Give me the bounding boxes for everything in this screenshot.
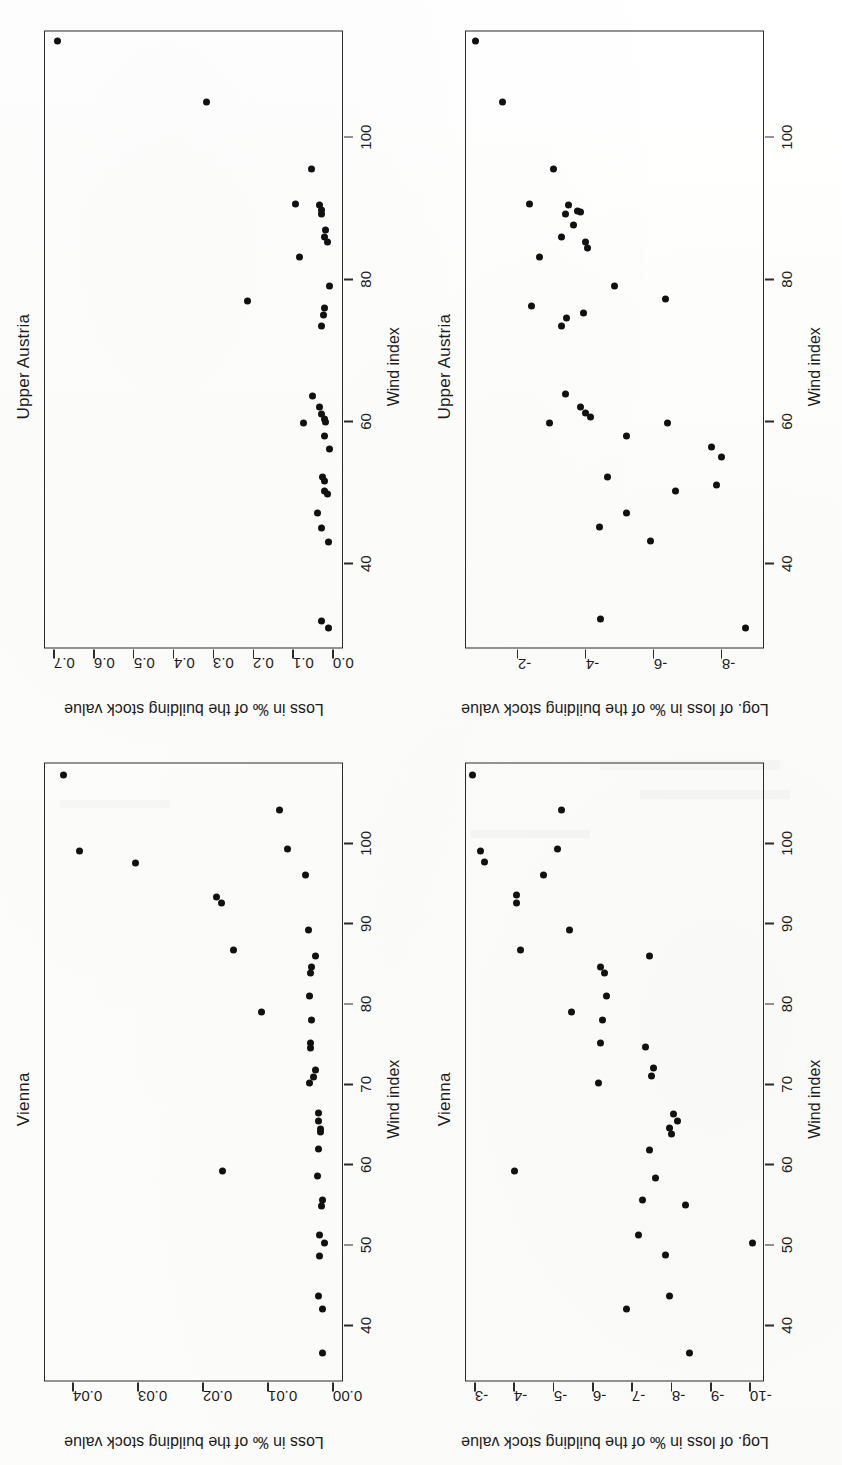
data-point: [316, 1252, 323, 1259]
y-tick-label: -7: [632, 1388, 645, 1405]
data-point: [513, 899, 520, 906]
x-tick-label: 50: [357, 1236, 374, 1253]
data-point: [203, 98, 210, 105]
data-point: [513, 891, 520, 898]
data-point: [292, 200, 299, 207]
figure-rotation-wrapper: Vienna Loss in ‰ of the building stock v…: [0, 0, 842, 1465]
x-tick-label: 80: [778, 270, 795, 287]
x-tick: [765, 136, 774, 138]
plot-area: 405060708090100 -3-4-5-6-7-8-9-10: [465, 763, 764, 1382]
data-point: [307, 969, 314, 976]
data-point: [312, 952, 319, 959]
data-point: [566, 926, 573, 933]
y-tick-label: 0.1: [293, 655, 314, 672]
data-point: [312, 1066, 319, 1073]
data-point: [321, 1239, 328, 1246]
data-point: [314, 509, 321, 516]
x-tick-label: 60: [778, 1156, 795, 1173]
data-point: [318, 524, 325, 531]
y-tick-label: -4: [514, 1388, 527, 1405]
data-point: [309, 392, 316, 399]
data-point: [611, 282, 618, 289]
x-tick: [344, 1003, 353, 1005]
data-point: [587, 413, 594, 420]
data-point: [554, 845, 561, 852]
data-point: [742, 624, 749, 631]
data-point: [308, 165, 315, 172]
y-axis-label: Log. of loss in ‰ of the building stock …: [461, 700, 769, 718]
data-point: [647, 537, 654, 544]
data-point: [577, 209, 584, 216]
x-tick: [765, 1324, 774, 1326]
y-tick-label: 0.02: [203, 1388, 232, 1405]
x-axis-label: Wind index: [806, 733, 824, 1465]
scatter-plot-figure: Vienna Loss in ‰ of the building stock v…: [0, 0, 842, 1465]
data-point: [568, 1008, 575, 1015]
data-point: [258, 1008, 265, 1015]
data-point: [481, 858, 488, 865]
x-tick-label: 80: [357, 995, 374, 1012]
x-tick: [344, 1244, 353, 1246]
x-tick: [765, 420, 774, 422]
x-tick-label: 40: [778, 1316, 795, 1333]
data-point: [713, 482, 720, 489]
plot-box: [465, 30, 764, 649]
panel-title: Upper Austria: [435, 0, 455, 733]
x-tick: [344, 136, 353, 138]
data-point: [319, 1305, 326, 1312]
x-tick-label: 90: [357, 915, 374, 932]
y-axis-label: Loss in ‰ of the building stock value: [64, 1432, 324, 1450]
plot-box: [465, 763, 764, 1382]
x-tick-label: 60: [357, 1156, 374, 1173]
data-point: [316, 403, 323, 410]
data-point: [570, 221, 577, 228]
x-tick-label: 100: [778, 830, 795, 855]
data-point: [469, 771, 476, 778]
x-tick-label: 90: [778, 915, 795, 932]
y-axis-label-holder: Loss in ‰ of the building stock value: [44, 695, 343, 715]
x-tick: [765, 1244, 774, 1246]
data-point: [528, 302, 535, 309]
data-point: [562, 210, 569, 217]
data-point: [584, 244, 591, 251]
y-tick-label: 0.5: [134, 655, 155, 672]
data-point: [324, 238, 331, 245]
data-point: [603, 992, 610, 999]
x-tick: [765, 1083, 774, 1085]
data-point: [604, 473, 611, 480]
y-tick-label: 0.04: [73, 1388, 102, 1405]
x-tick-label: 40: [357, 555, 374, 572]
data-point: [305, 926, 312, 933]
data-point: [318, 210, 325, 217]
data-point: [511, 1167, 518, 1174]
panel-title: Vienna: [14, 733, 34, 1465]
x-tick: [344, 1324, 353, 1326]
data-point: [296, 253, 303, 260]
x-tick-label: 60: [357, 413, 374, 430]
data-point: [325, 538, 332, 545]
plot-area: 405060708090100 0.000.010.020.030.04: [44, 763, 343, 1382]
data-point: [322, 226, 329, 233]
data-point: [682, 1201, 689, 1208]
data-point: [674, 1117, 681, 1124]
y-tick-label: -6: [654, 655, 667, 672]
y-axis-label: Loss in ‰ of the building stock value: [64, 700, 324, 718]
x-tick-label: 100: [357, 830, 374, 855]
data-point: [321, 432, 328, 439]
y-tick-label: 0.03: [138, 1388, 167, 1405]
x-tick: [765, 1003, 774, 1005]
data-point: [718, 453, 725, 460]
x-tick: [765, 922, 774, 924]
x-tick-label: 50: [778, 1236, 795, 1253]
data-point: [60, 771, 67, 778]
data-point: [230, 946, 237, 953]
data-point: [302, 871, 309, 878]
data-point: [244, 297, 251, 304]
x-tick: [344, 420, 353, 422]
data-point: [316, 1231, 323, 1238]
y-tick-label: 0.01: [268, 1388, 297, 1405]
y-tick-label: -3: [475, 1388, 488, 1405]
y-tick-label: 0.6: [94, 655, 115, 672]
data-point: [517, 946, 524, 953]
data-point: [499, 98, 506, 105]
